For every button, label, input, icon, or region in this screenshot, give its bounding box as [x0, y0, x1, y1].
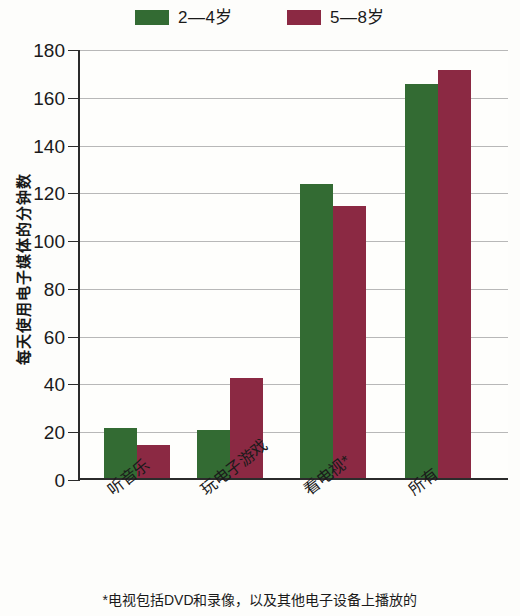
y-axis-label-0: 0 — [54, 471, 65, 490]
y-axis-label-80: 80 — [44, 279, 65, 298]
legend-item-series-2: 5—8岁 — [287, 9, 385, 26]
legend-label-series-2: 5—8岁 — [330, 9, 385, 26]
y-axis-label-180: 180 — [33, 41, 65, 60]
y-tick-160 — [68, 98, 80, 99]
y-tick-120 — [68, 193, 80, 194]
y-tick-140 — [68, 146, 80, 147]
y-tick-180 — [68, 50, 80, 51]
bar-group-2 — [197, 50, 263, 478]
y-tick-20 — [68, 432, 80, 433]
chart-legend: 2—4岁 5—8岁 — [0, 4, 520, 30]
legend-swatch-green — [135, 10, 169, 25]
legend-item-series-1: 2—4岁 — [135, 9, 233, 26]
x-axis-labels: 听音乐玩电子游戏看电视*所有 — [78, 486, 518, 581]
plot-area: 020406080100120140160180 — [78, 50, 508, 480]
y-tick-0 — [68, 480, 80, 481]
legend-label-series-1: 2—4岁 — [178, 9, 233, 26]
plot-wrapper: 020406080100120140160180 — [78, 50, 508, 480]
bar-4-series-2 — [438, 70, 471, 479]
y-axis-label-140: 140 — [33, 136, 65, 155]
y-tick-80 — [68, 289, 80, 290]
y-axis-title: 每天使用电子媒体的分钟数 — [12, 114, 33, 424]
y-axis-label-20: 20 — [44, 423, 65, 442]
y-tick-100 — [68, 241, 80, 242]
y-axis-label-60: 60 — [44, 327, 65, 346]
y-tick-40 — [68, 384, 80, 385]
y-tick-60 — [68, 337, 80, 338]
y-axis-label-40: 40 — [44, 375, 65, 394]
chart-figure: 2—4岁 5—8岁 每天使用电子媒体的分钟数 02040608010012014… — [0, 0, 520, 616]
y-axis-label-160: 160 — [33, 88, 65, 107]
legend-swatch-maroon — [287, 10, 321, 25]
bar-3-series-2 — [333, 206, 366, 478]
bar-group-4 — [405, 50, 471, 478]
bar-group-3 — [300, 50, 366, 478]
bar-4-series-1 — [405, 84, 438, 478]
bar-3-series-1 — [300, 184, 333, 478]
y-axis-label-120: 120 — [33, 184, 65, 203]
chart-footnote: *电视包括DVD和录像，以及其他电子设备上播放的 — [0, 592, 520, 609]
y-axis-label-100: 100 — [33, 232, 65, 251]
bar-group-1 — [104, 50, 170, 478]
